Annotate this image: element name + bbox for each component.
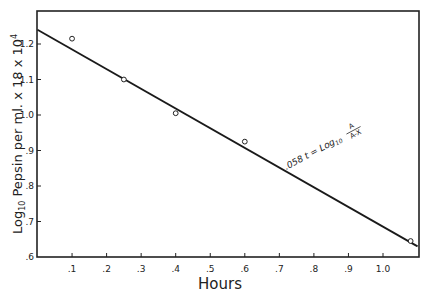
x-tick-label: .6 xyxy=(241,264,250,274)
y-tick-label: .7 xyxy=(25,217,34,227)
x-tick-label: .2 xyxy=(102,264,111,274)
x-tick-label: .7 xyxy=(275,264,284,274)
y-axis-title: Log10 Pepsin per ml. x 18 x 104 xyxy=(10,34,27,234)
x-axis-ticks: .1.2.3.4.5.6.7.8.91.0 xyxy=(68,253,391,274)
x-axis-title: Hours xyxy=(198,275,242,293)
x-tick-label: .9 xyxy=(344,264,353,274)
x-tick-label: 1.0 xyxy=(376,264,391,274)
x-tick-label: .8 xyxy=(310,264,319,274)
x-tick-label: .4 xyxy=(171,264,180,274)
data-point-marker xyxy=(242,139,247,144)
x-tick-label: .1 xyxy=(68,264,77,274)
data-point-marker xyxy=(70,36,75,41)
chart: .1.2.3.4.5.6.7.8.91.0 .6.7.8.91.01.11.2 … xyxy=(0,0,424,296)
svg-text:.058 t = Log10: .058 t = Log10 xyxy=(283,133,344,173)
x-tick-label: .5 xyxy=(206,264,215,274)
y-tick-label: .6 xyxy=(25,252,34,262)
data-point-marker xyxy=(121,77,126,82)
data-point-marker xyxy=(408,239,413,244)
equation-annotation: .058 t = Log10AA-X xyxy=(281,119,365,174)
x-tick-label: .3 xyxy=(137,264,146,274)
y-tick-label: .9 xyxy=(25,146,34,156)
data-point-marker xyxy=(173,111,178,116)
data-points xyxy=(70,36,413,243)
y-tick-label: .8 xyxy=(25,181,34,191)
fitted-line xyxy=(38,30,418,247)
